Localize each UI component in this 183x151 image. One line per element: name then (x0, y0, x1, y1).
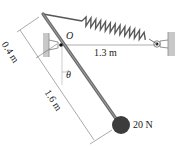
pivot-label: O (66, 31, 73, 41)
spring-length-label: 1.3 m (94, 48, 117, 58)
angle-label: θ (66, 70, 71, 80)
weight-label: 20 N (133, 120, 153, 130)
pendulum-spring-diagram (0, 0, 183, 151)
pivot-pin (59, 43, 63, 47)
dimension-lines (17, 17, 112, 144)
weight-ball (112, 116, 130, 134)
